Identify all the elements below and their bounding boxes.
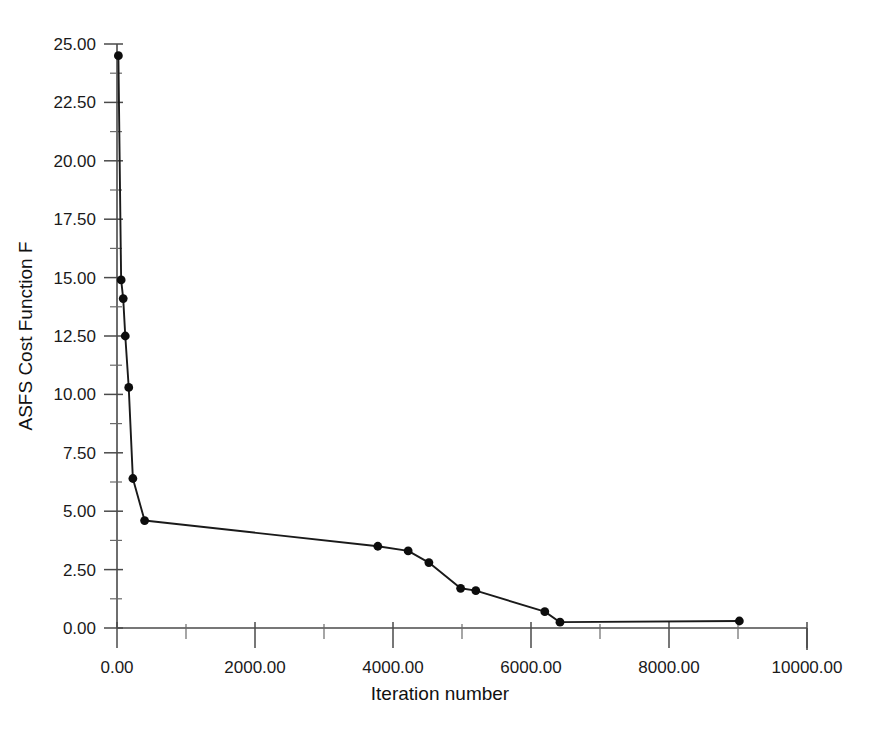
y-tick-label: 20.00 [53, 152, 96, 171]
series-line-0 [118, 56, 739, 622]
chart-figure: 0.002.505.007.5010.0012.5015.0017.5020.0… [0, 0, 878, 729]
x-axis-title: Iteration number [371, 683, 510, 704]
data-point [140, 516, 149, 525]
x-tick-label: 4000.00 [362, 658, 423, 677]
tick-labels-group: 0.002.505.007.5010.0012.5015.0017.5020.0… [53, 35, 842, 677]
y-tick-label: 25.00 [53, 35, 96, 54]
data-point [540, 607, 549, 616]
data-point [556, 618, 565, 627]
data-point [114, 51, 123, 60]
x-tick-label: 10000.00 [772, 658, 843, 677]
data-point [119, 294, 128, 303]
x-tick-label: 2000.00 [224, 658, 285, 677]
x-tick-label: 6000.00 [500, 658, 561, 677]
y-tick-label: 10.00 [53, 385, 96, 404]
data-point [124, 383, 133, 392]
data-point [404, 547, 413, 556]
data-series-group [114, 51, 744, 626]
y-tick-label: 17.50 [53, 210, 96, 229]
x-tick-label: 0.00 [100, 658, 133, 677]
data-point [424, 558, 433, 567]
y-tick-label: 12.50 [53, 327, 96, 346]
data-point [373, 542, 382, 551]
y-tick-label: 0.00 [63, 619, 96, 638]
y-tick-label: 15.00 [53, 269, 96, 288]
data-point [471, 586, 480, 595]
data-point [735, 617, 744, 626]
y-tick-label: 2.50 [63, 561, 96, 580]
line-chart-plot: 0.002.505.007.5010.0012.5015.0017.5020.0… [0, 0, 878, 729]
y-tick-label: 7.50 [63, 444, 96, 463]
data-point [456, 584, 465, 593]
data-point [117, 276, 126, 285]
y-tick-label: 22.50 [53, 93, 96, 112]
axes-group [117, 44, 807, 650]
data-point [128, 474, 137, 483]
y-axis-title: ASFS Cost Function F [15, 241, 36, 430]
data-point [121, 332, 130, 341]
ticks-group [104, 44, 807, 648]
x-tick-label: 8000.00 [638, 658, 699, 677]
y-tick-label: 5.00 [63, 502, 96, 521]
